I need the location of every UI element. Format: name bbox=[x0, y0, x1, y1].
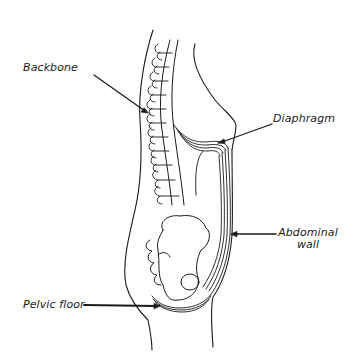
diaphragm-arrow bbox=[222, 124, 272, 142]
back-outline bbox=[125, 30, 153, 350]
backbone-arrow bbox=[94, 75, 145, 111]
backbone-label: Backbone bbox=[23, 62, 78, 74]
diaphragm-muscle bbox=[174, 125, 228, 156]
diaphragm-label: Diaphragm bbox=[273, 113, 335, 125]
spine bbox=[147, 40, 184, 205]
abdominal-wall-label: Abdominal wall bbox=[278, 227, 338, 251]
pelvis bbox=[146, 216, 209, 301]
pelvic-floor-label: Pelvic floor bbox=[23, 299, 85, 311]
pelvic-floor-arrow bbox=[84, 305, 156, 306]
abdominal-wall-label-line2: wall bbox=[278, 239, 338, 251]
leader-arrows bbox=[84, 75, 276, 309]
front-chest-outline bbox=[194, 44, 236, 150]
pelvic-floor-muscle bbox=[152, 293, 212, 312]
